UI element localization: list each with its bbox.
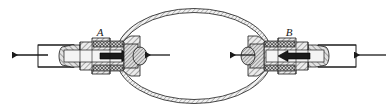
bulb-cross-section-diagram: A B: [0, 0, 389, 111]
label-electrode-a: A: [96, 26, 104, 38]
right-lower-packing: [265, 65, 295, 71]
label-electrode-b: B: [286, 26, 293, 38]
figure-root: A B: [0, 0, 389, 111]
right-upper-packing: [265, 41, 295, 47]
left-upper-packing: [93, 41, 123, 47]
right-tip-gland: [241, 47, 255, 65]
left-lower-packing: [93, 65, 123, 71]
left-tip-gland: [133, 47, 147, 65]
